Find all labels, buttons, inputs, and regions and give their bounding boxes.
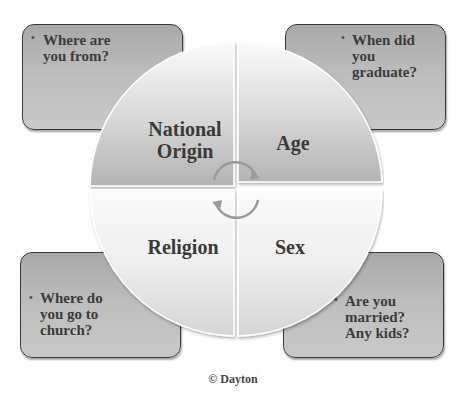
quadrant-label-religion: Religion: [128, 236, 238, 258]
quadrant-wheel: National Origin Age Religion Sex: [88, 40, 384, 343]
quadrant-national-origin: [90, 42, 234, 186]
quadrant-age: [238, 42, 382, 182]
bullet-icon: •: [29, 291, 33, 303]
label-line: Origin: [140, 140, 230, 162]
quadrant-sex: [238, 190, 382, 336]
quadrant-label-age: Age: [258, 132, 328, 154]
quadrant-religion: [90, 190, 234, 336]
label-line: National: [140, 118, 230, 140]
wheel-graphic: [88, 40, 384, 343]
quadrant-label-national-origin: National Origin: [140, 118, 230, 162]
copyright-caption: © Dayton: [0, 372, 466, 387]
quadrant-label-sex: Sex: [260, 236, 320, 258]
bullet-icon: •: [31, 31, 35, 43]
